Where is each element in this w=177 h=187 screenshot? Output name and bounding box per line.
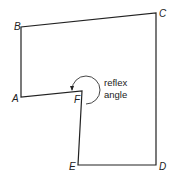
- vertex-label-c: C: [159, 8, 167, 19]
- vertex-label-d: D: [159, 161, 166, 172]
- vertex-label-e: E: [69, 161, 76, 172]
- polygon-abcdef: [21, 13, 156, 165]
- vertex-label-b: B: [14, 21, 21, 32]
- vertex-label-a: A: [11, 93, 19, 104]
- reflex-angle-diagram: A B C D E F reflex angle: [0, 0, 177, 187]
- arrowhead-icon: [70, 86, 74, 91]
- annotation-line-1: reflex: [104, 77, 127, 88]
- vertex-label-f: F: [74, 94, 81, 105]
- annotation-line-2: angle: [104, 89, 127, 100]
